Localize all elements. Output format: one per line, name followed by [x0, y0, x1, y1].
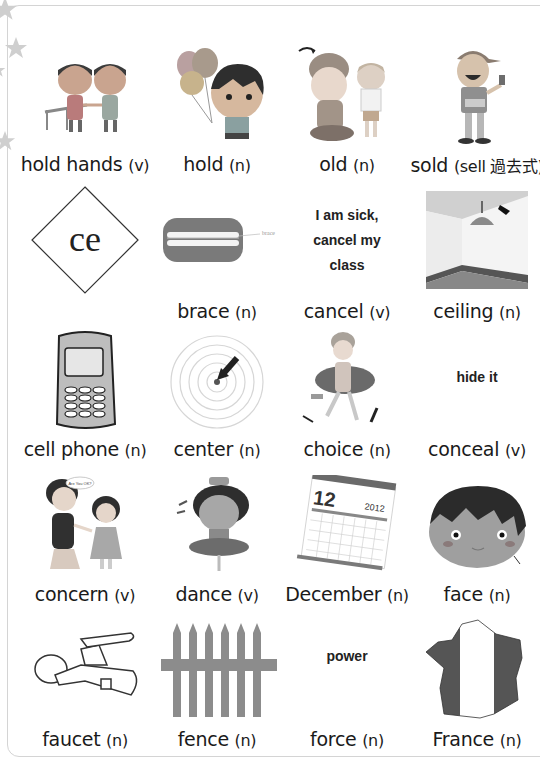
word-label: cancel (v) — [272, 300, 422, 322]
vocabulary-grid: hold hands (v) hold (n) — [0, 0, 540, 771]
word-label: choice (n) — [272, 438, 422, 460]
word-label: force (n) — [272, 728, 422, 750]
card-december: 12 2012 December (n) — [282, 475, 412, 615]
word-text: choice — [303, 438, 363, 460]
word-text: sold — [410, 154, 448, 176]
part-of-speech: (v) — [505, 441, 526, 460]
word-text: brace — [177, 300, 229, 322]
word-text: hold hands — [21, 153, 123, 175]
word-text: fence — [178, 728, 229, 750]
word-label: brace (n) — [142, 300, 292, 322]
part-of-speech: (n) — [239, 441, 261, 460]
word-text: cancel — [304, 300, 364, 322]
girl-choosing-illustration — [282, 330, 412, 430]
kids-holding-hands-illustration — [20, 45, 150, 145]
word-text: faucet — [42, 728, 100, 750]
vendor-selling-illustration — [412, 45, 540, 145]
card-choice: choice (n) — [282, 330, 412, 470]
part-of-speech: (v) — [114, 586, 135, 605]
word-text: December — [285, 583, 381, 605]
word-text: concern — [35, 583, 109, 605]
part-of-speech: (n) — [106, 731, 128, 750]
word-label: conceal (v) — [402, 438, 540, 460]
word-text: face — [444, 583, 483, 605]
word-label: concern (v) — [10, 583, 160, 605]
card-france: France (n) — [412, 620, 540, 760]
word-label: center (n) — [142, 438, 292, 460]
mother-and-daughter-illustration: Are You OK? — [20, 475, 150, 575]
card-sold: sold (sell 過去式) — [412, 45, 540, 185]
boy-face-illustration — [412, 475, 540, 575]
diamond-text: ce — [69, 219, 101, 259]
calendar-month: 12 — [312, 486, 337, 511]
boy-holding-balloons-illustration — [152, 45, 282, 145]
cell-phone-illustration — [20, 330, 150, 430]
part-of-speech: (n) — [489, 586, 511, 605]
conceal-note: hide it — [412, 330, 540, 430]
note-line: class — [329, 253, 364, 278]
word-label: ceiling (n) — [402, 300, 540, 322]
france-flag-map-illustration — [412, 620, 540, 720]
word-text: force — [310, 728, 356, 750]
card-conceal: hide it conceal (v) — [412, 330, 540, 470]
part-of-speech: (sell 過去式) — [454, 157, 540, 176]
card-faucet: faucet (n) — [20, 620, 150, 760]
word-text: hold — [183, 153, 223, 175]
part-of-speech: (n) — [499, 303, 521, 322]
word-text: cell phone — [24, 438, 119, 460]
old-man-and-boy-illustration — [282, 45, 412, 145]
card-hold: hold (n) — [152, 45, 282, 185]
part-of-speech: (n) — [369, 441, 391, 460]
word-label: sold (sell 過去式) — [392, 153, 540, 177]
word-text: France — [433, 728, 494, 750]
dancing-girl-illustration — [152, 475, 282, 575]
card-brace: brace brace (n) — [152, 190, 282, 330]
word-label: face (n) — [402, 583, 540, 605]
note-line: hide it — [456, 365, 497, 390]
card-face: face (n) — [412, 475, 540, 615]
card-cell-phone: cell phone (n) — [20, 330, 150, 470]
card-ce-phonics: ce — [20, 190, 150, 330]
word-text: conceal — [428, 438, 499, 460]
calendar-illustration: 12 2012 — [282, 475, 412, 575]
card-fence: fence (n) — [152, 620, 282, 760]
word-text: ceiling — [433, 300, 493, 322]
diamond-phonics-card: ce — [20, 190, 150, 290]
concentric-circles-arrow-illustration — [152, 330, 282, 430]
part-of-speech: (n) — [353, 156, 375, 175]
speech-bubble-text: Are You OK? — [68, 481, 92, 486]
card-concern: Are You OK? concern (v) — [20, 475, 150, 615]
part-of-speech: (v) — [369, 303, 390, 322]
faucet-illustration — [20, 620, 150, 720]
word-text: dance — [175, 583, 231, 605]
word-label: hold (n) — [142, 153, 292, 175]
card-center: center (n) — [152, 330, 282, 470]
word-text: center — [174, 438, 233, 460]
cancel-note: I am sick, cancel my class — [282, 190, 412, 290]
card-cancel: I am sick, cancel my class cancel (v) — [282, 190, 412, 330]
word-label: hold hands (v) — [10, 153, 160, 175]
force-note: power — [282, 620, 412, 720]
word-label: faucet (n) — [10, 728, 160, 750]
word-text: old — [319, 153, 347, 175]
card-hold-hands: hold hands (v) — [20, 45, 150, 185]
note-line: I am sick, — [315, 203, 378, 228]
part-of-speech: (n) — [235, 303, 257, 322]
part-of-speech: (n) — [235, 731, 257, 750]
room-ceiling-lamp-illustration — [412, 190, 540, 290]
picture-caption: brace — [262, 230, 275, 236]
card-force: power force (n) — [282, 620, 412, 760]
word-label: fence (n) — [142, 728, 292, 750]
part-of-speech: (n) — [500, 731, 522, 750]
part-of-speech: (n) — [362, 731, 384, 750]
note-line: power — [326, 644, 367, 669]
note-line: cancel my — [313, 228, 381, 253]
part-of-speech: (n) — [229, 156, 251, 175]
teeth-braces-illustration: brace — [152, 190, 282, 290]
word-label: cell phone (n) — [10, 438, 160, 460]
part-of-speech: (v) — [238, 586, 259, 605]
fence-illustration — [152, 620, 282, 720]
word-label: France (n) — [402, 728, 540, 750]
card-ceiling: ceiling (n) — [412, 190, 540, 330]
